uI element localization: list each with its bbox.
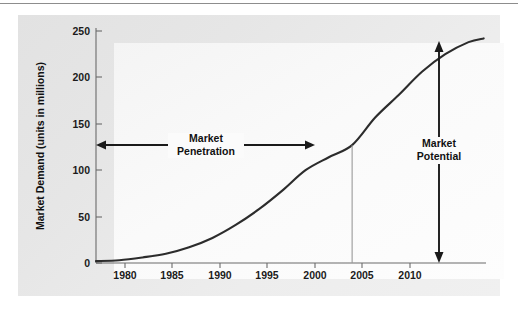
x-tick-label-2000: 2000 (303, 269, 327, 281)
y-tick-label-250: 250 (72, 25, 90, 37)
market-penetration-annotation: Market Penetration (96, 132, 315, 158)
market-penetration-label-line1: Market (189, 132, 223, 144)
market-potential-arrow-head-top (435, 41, 444, 52)
x-tick-label-1980: 1980 (113, 269, 137, 281)
y-tick-label-0: 0 (84, 257, 90, 269)
market-penetration-arrow-head-right (305, 141, 315, 150)
y-axis-tick-labels: 250 200 150 100 50 0 (72, 25, 90, 269)
market-potential-label-line2: Potential (417, 150, 461, 162)
x-axis-ticks (125, 263, 410, 268)
x-tick-label-1985: 1985 (160, 269, 184, 281)
market-penetration-arrow-head-left (96, 141, 106, 150)
market-penetration-label-line2: Penetration (177, 145, 235, 157)
x-tick-label-1995: 1995 (255, 269, 279, 281)
y-tick-label-100: 100 (72, 164, 90, 176)
chart-figure: 250 200 150 100 50 0 1980 1985 1990 1995… (0, 0, 518, 310)
y-tick-label-150: 150 (72, 118, 90, 130)
y-tick-label-200: 200 (72, 71, 90, 83)
y-tick-label-50: 50 (78, 211, 90, 223)
y-axis-title: Market Demand (units in millions) (34, 62, 46, 230)
market-potential-arrow-head-bottom (435, 252, 444, 263)
market-potential-label-line1: Market (422, 137, 456, 149)
x-tick-label-1990: 1990 (208, 269, 232, 281)
x-axis-tick-labels: 1980 1985 1990 1995 2000 2005 2010 (113, 269, 422, 281)
chart-svg: 250 200 150 100 50 0 1980 1985 1990 1995… (0, 0, 518, 310)
x-tick-label-2010: 2010 (398, 269, 422, 281)
x-tick-label-2005: 2005 (350, 269, 374, 281)
